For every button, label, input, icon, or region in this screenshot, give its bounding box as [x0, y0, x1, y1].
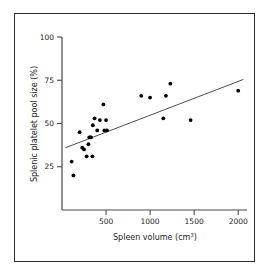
x-tick-label: 1000 [141, 217, 160, 226]
data-point [102, 103, 106, 107]
data-point [93, 116, 97, 120]
y-tick-label: 25 [44, 162, 54, 171]
x-tick-label: 500 [99, 217, 114, 226]
data-point [87, 142, 91, 146]
x-tick-label: 1500 [185, 217, 204, 226]
data-point [104, 118, 108, 122]
data-point [98, 118, 102, 122]
data-point [78, 130, 82, 134]
x-axis-title: Spleen volume (cm3) [113, 232, 197, 242]
data-point [89, 135, 93, 139]
x-axis-tick-labels: 500100015002000 [99, 217, 248, 226]
data-point [148, 96, 152, 100]
data-point [236, 89, 240, 93]
x-axis-ticks [106, 210, 238, 215]
data-point [91, 123, 95, 127]
data-point [189, 118, 193, 122]
data-point [82, 148, 86, 152]
scatter-plot: 255075100 500100015002000 Spleen volume … [0, 0, 268, 277]
data-point [105, 129, 109, 133]
y-tick-label: 100 [40, 33, 55, 42]
data-point [70, 160, 74, 164]
data-point [90, 154, 94, 158]
y-tick-label: 50 [44, 119, 54, 128]
data-point [85, 154, 89, 158]
data-point [95, 129, 99, 133]
y-axis-tick-labels: 255075100 [40, 33, 55, 172]
data-point [168, 82, 172, 86]
data-point [161, 116, 165, 120]
data-point-group [70, 82, 240, 177]
data-point [139, 94, 143, 98]
figure-canvas: 255075100 500100015002000 Spleen volume … [0, 0, 268, 277]
y-axis-title: Splenic platelet pool size (%) [30, 66, 39, 182]
y-axis-ticks [57, 37, 62, 167]
data-point [72, 174, 76, 178]
y-tick-label: 75 [44, 76, 54, 85]
x-tick-label: 2000 [229, 217, 248, 226]
data-point [164, 94, 168, 98]
